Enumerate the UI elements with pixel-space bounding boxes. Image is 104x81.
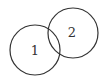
set-1-label: 1 [31,43,39,58]
venn-diagram: 1 2 [0,0,104,81]
set-2-label: 2 [68,25,76,40]
